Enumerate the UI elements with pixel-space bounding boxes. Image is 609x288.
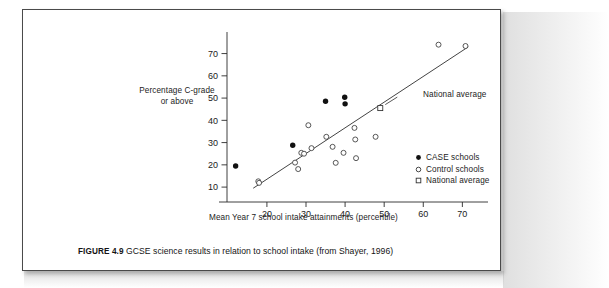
annotation-leader-line	[385, 97, 397, 105]
filled-circle-icon	[413, 153, 424, 162]
figure-caption-number: FIGURE 4.9	[78, 247, 124, 256]
y-tick-label: 20	[208, 160, 218, 170]
x-axis-title: Mean Year 7 school intake attainments (p…	[209, 213, 509, 222]
data-point	[330, 144, 335, 149]
data-point	[341, 150, 346, 155]
data-point	[296, 167, 301, 172]
chart-legend: CASE schools Control schools National av…	[413, 152, 490, 187]
data-point	[352, 125, 357, 130]
data-point	[378, 106, 383, 111]
legend-label-control-schools: Control schools	[424, 165, 484, 174]
y-axis-title-line-2: or above	[123, 97, 231, 108]
data-point	[436, 42, 441, 47]
chart-plot-area: 10203040506070203040506070 Percentage C-…	[23, 10, 502, 230]
legend-label-case-schools: CASE schools	[424, 153, 480, 162]
legend-item-control-schools: Control schools	[413, 164, 490, 176]
legend-item-case-schools: CASE schools	[413, 152, 490, 164]
open-circle-icon	[413, 165, 424, 174]
figure-caption: FIGURE 4.9 GCSE science results in relat…	[78, 246, 393, 256]
y-tick-label: 70	[208, 49, 218, 59]
data-point	[233, 163, 238, 168]
legend-label-national-average: National average	[424, 176, 490, 185]
scan-shadow-bottom	[24, 271, 504, 288]
data-point	[333, 160, 338, 165]
y-tick-label: 40	[208, 116, 218, 126]
scan-shadow-right	[503, 12, 609, 288]
figure-caption-text: GCSE science results in relation to scho…	[126, 246, 393, 256]
y-tick-label: 30	[208, 138, 218, 148]
data-point	[354, 156, 359, 161]
data-point	[463, 44, 468, 49]
data-point	[293, 160, 298, 165]
y-axis-title: Percentage C-grade or above	[123, 86, 231, 107]
y-tick-label: 10	[208, 182, 218, 192]
data-point	[309, 146, 314, 151]
data-point	[306, 123, 311, 128]
data-point	[302, 151, 307, 156]
data-point	[353, 137, 358, 142]
open-square-icon	[413, 176, 424, 185]
data-point	[342, 101, 347, 106]
data-point	[323, 99, 328, 104]
data-point	[290, 143, 295, 148]
data-point	[324, 134, 329, 139]
y-axis-title-line-1: Percentage C-grade	[123, 86, 231, 97]
scatter-plot-svg: 10203040506070203040506070	[23, 10, 502, 230]
page-background: 10203040506070203040506070 Percentage C-…	[0, 0, 609, 288]
national-average-annotation-label: National average	[423, 90, 487, 99]
legend-item-national-average: National average	[413, 175, 490, 187]
data-point	[373, 134, 378, 139]
data-point	[257, 180, 262, 185]
figure-card: 10203040506070203040506070 Percentage C-…	[22, 9, 501, 271]
y-tick-label: 60	[208, 71, 218, 81]
data-point	[342, 94, 347, 99]
